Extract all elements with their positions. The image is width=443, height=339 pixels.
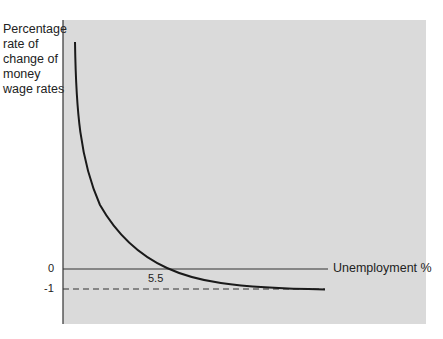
phillips-curve <box>75 42 325 290</box>
chart-svg <box>0 0 443 339</box>
y-tick-minus-1: -1 <box>44 282 54 294</box>
x-axis-label: Unemployment % <box>333 261 432 275</box>
crossing-annotation: 5.5 <box>148 272 163 284</box>
y-tick-0: 0 <box>48 262 54 274</box>
